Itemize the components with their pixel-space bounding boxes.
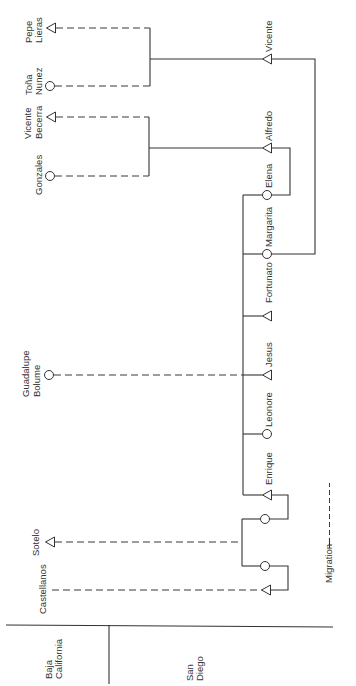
person-unnamed-female-2 bbox=[261, 562, 270, 571]
male-triangle-icon bbox=[262, 585, 271, 595]
region-label-line: California bbox=[53, 638, 64, 679]
person-jesus: Jesus bbox=[263, 342, 274, 380]
person-label: Enrique bbox=[263, 452, 274, 485]
person-label: Leonore bbox=[263, 392, 274, 427]
kinship-lines bbox=[149, 28, 315, 590]
person-sotelo: Sotelo bbox=[30, 529, 55, 556]
person-alfredo: Alfredo bbox=[263, 111, 274, 153]
person-label: Jesus bbox=[263, 342, 274, 367]
person-unnamed-female-1 bbox=[261, 515, 270, 524]
person-label: Elena bbox=[263, 163, 274, 188]
couple-bracket-alfredo-elena bbox=[272, 148, 291, 195]
region-label-san-diego: San Diego bbox=[184, 656, 206, 681]
region-label-line: San bbox=[184, 664, 195, 681]
person-vicente-becerra: Vicente Becerra bbox=[22, 105, 56, 139]
region-label-baja-california: Baja California bbox=[43, 638, 64, 679]
person-gonzales: Gonzales bbox=[33, 155, 55, 195]
female-circle-icon bbox=[46, 82, 55, 91]
male-triangle-icon bbox=[46, 537, 55, 547]
person-label-line: Castellanos bbox=[37, 564, 48, 614]
person-label: Vicente bbox=[263, 20, 274, 52]
region-label-line: Diego bbox=[194, 656, 205, 681]
person-tona-nunez: Toña Nunez bbox=[23, 67, 55, 95]
person-label-line: Lieras bbox=[33, 17, 44, 43]
person-label-line: Guadalupe bbox=[20, 351, 31, 397]
female-circle-icon bbox=[263, 430, 272, 439]
person-label-line: Vicente bbox=[22, 107, 33, 139]
person-label-line: Nunez bbox=[33, 67, 44, 95]
person-vicente: Vicente bbox=[263, 20, 274, 64]
male-triangle-icon bbox=[263, 370, 272, 380]
person-unnamed-male-1 bbox=[262, 585, 271, 595]
person-castellanos: Castellanos bbox=[37, 564, 48, 614]
male-triangle-icon bbox=[47, 112, 56, 122]
female-circle-icon bbox=[46, 172, 55, 181]
person-margarita: Margarita bbox=[263, 206, 274, 258]
legend-migration-label: Migration bbox=[323, 544, 334, 583]
female-circle-icon bbox=[261, 515, 270, 524]
person-elena: Elena bbox=[263, 163, 274, 200]
female-circle-icon bbox=[263, 250, 272, 259]
person-enrique: Enrique bbox=[263, 452, 274, 500]
person-label: Alfredo bbox=[263, 111, 274, 141]
person-label-line: Gonzales bbox=[33, 155, 44, 195]
male-triangle-icon bbox=[47, 23, 56, 33]
person-label-line: Bolume bbox=[31, 365, 42, 397]
person-label: Margarita bbox=[263, 206, 274, 247]
couple-bracket-unnamed-pair bbox=[270, 566, 289, 590]
person-label: Fortunato bbox=[263, 262, 274, 303]
legend-migration: Migration bbox=[323, 483, 334, 583]
male-triangle-icon bbox=[263, 143, 272, 153]
region-horizontal-divider bbox=[6, 625, 333, 627]
person-label-line: Sotelo bbox=[30, 529, 41, 556]
couple-bracket-enrique-unnamed bbox=[270, 495, 289, 519]
person-pepe-lieras: Pepe Lieras bbox=[23, 17, 56, 43]
couple-bracket-vicente-margarita bbox=[272, 59, 316, 254]
male-triangle-icon bbox=[263, 490, 272, 500]
person-leonore: Leonore bbox=[263, 392, 274, 438]
male-triangle-icon bbox=[263, 54, 272, 64]
female-circle-icon bbox=[263, 191, 272, 200]
person-guadalupe-bolume: Guadalupe Bolume bbox=[20, 351, 54, 397]
kinship-migration-diagram: Baja California San Diego Migration bbox=[0, 0, 356, 686]
male-triangle-icon bbox=[263, 311, 272, 321]
female-circle-icon bbox=[261, 562, 270, 571]
female-circle-icon bbox=[45, 371, 54, 380]
person-label-line: Becerra bbox=[33, 105, 44, 139]
person-fortunato: Fortunato bbox=[263, 262, 274, 321]
migration-lines bbox=[52, 28, 262, 590]
